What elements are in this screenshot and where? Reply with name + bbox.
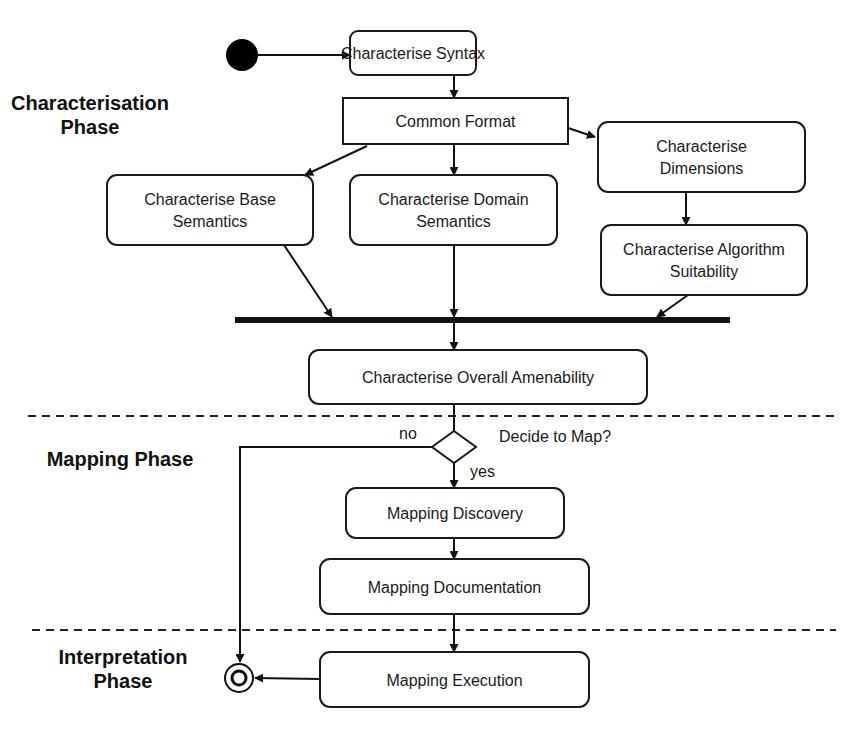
node-label: Characterise Base [144, 191, 276, 208]
edge-format-to-dimensions [565, 127, 595, 137]
decision-yes-label: yes [470, 463, 495, 480]
node-characterise-base-semantics: Characterise BaseSemantics [107, 175, 313, 245]
node-label: Characterise Algorithm [623, 241, 785, 258]
decision-question: Decide to Map? [499, 428, 611, 445]
node-common-format: Common Format [343, 98, 568, 144]
phase-label-mapping: Mapping Phase [47, 448, 194, 470]
decision-no-label: no [399, 425, 417, 442]
edge-algorithm-to-bar [657, 295, 688, 317]
edge-format-to-base [305, 146, 367, 175]
node-characterise-overall-amenability: Characterise Overall Amenability [309, 350, 647, 404]
node-label: Characterise Domain [378, 191, 528, 208]
node-characterise-algorithm-suitability: Characterise AlgorithmSuitability [601, 225, 807, 295]
join-bar [235, 317, 730, 323]
activity-nodes: Characterise SyntaxCommon FormatCharacte… [107, 31, 807, 707]
start-end-nodes [225, 39, 258, 692]
decision-diamond [432, 431, 476, 463]
edge-base-to-bar [284, 245, 332, 317]
node-label: Dimensions [660, 160, 744, 177]
synchronization-bar [235, 317, 730, 323]
node-label: Characterise Syntax [341, 45, 485, 62]
node-characterise-syntax: Characterise Syntax [341, 31, 485, 75]
node-label: Characterise [656, 138, 747, 155]
phase-label-characterisation: CharacterisationPhase [11, 92, 169, 138]
node-label: Mapping Execution [386, 672, 522, 689]
edge-execution-to-end [255, 678, 320, 679]
node-label: Common Format [395, 113, 516, 130]
node-characterise-domain-semantics: Characterise DomainSemantics [350, 175, 557, 245]
decision-node: Decide to Map?noyes [399, 425, 611, 480]
node-label: Characterise Overall Amenability [362, 369, 594, 386]
node-mapping-execution: Mapping Execution [320, 652, 589, 707]
node-mapping-discovery: Mapping Discovery [346, 488, 564, 538]
node-label: Semantics [416, 213, 491, 230]
node-label: Mapping Documentation [368, 579, 541, 596]
node-characterise-dimensions: CharacteriseDimensions [598, 122, 805, 192]
phase-label-interpretation: InterpretationPhase [59, 646, 188, 692]
node-mapping-documentation: Mapping Documentation [320, 559, 589, 614]
activity-diagram: CharacterisationPhaseMapping PhaseInterp… [0, 0, 856, 739]
node-label: Semantics [173, 213, 248, 230]
node-label: Mapping Discovery [387, 505, 523, 522]
node-label: Suitability [670, 263, 738, 280]
final-node-inner [232, 671, 246, 685]
initial-node-icon [226, 39, 258, 71]
